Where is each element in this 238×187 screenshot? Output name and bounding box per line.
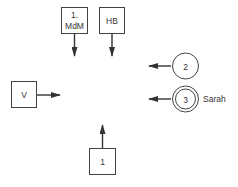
box-hb-label: HB [106,16,118,26]
seating-diagram: 1. MdM HB V 1 2 3 Sarah [0,0,238,187]
box-one-label: 1 [100,157,105,167]
circle-three: 3 [173,86,199,112]
box-mdm: 1. MdM [62,8,88,34]
box-v-label: V [21,90,27,100]
sarah-label: Sarah [203,94,226,104]
circle-two-label: 2 [183,62,188,72]
box-v: V [12,82,37,108]
circle-three-label: 3 [183,95,188,105]
circle-two: 2 [173,53,199,79]
box-mdm-line1: 1. [71,10,78,20]
box-one: 1 [90,149,116,175]
box-mdm-line2: MdM [65,21,84,31]
box-hb: HB [100,8,125,34]
